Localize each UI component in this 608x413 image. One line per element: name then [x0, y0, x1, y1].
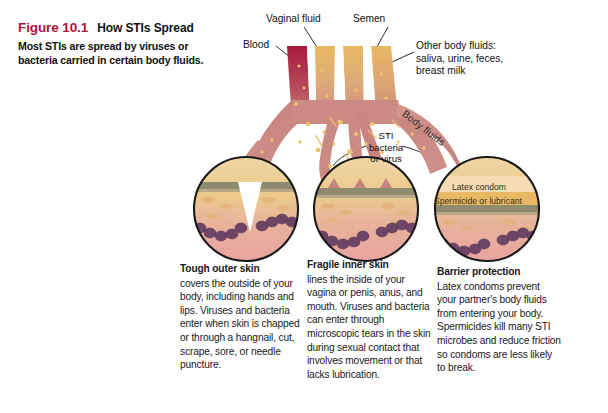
label-sti-bacteria-or-virus: STI bacteria or virus: [369, 130, 403, 165]
caption-heading: Barrier protection: [437, 265, 561, 279]
label-latex-condom: Latex condom: [452, 182, 506, 192]
caption-tough-outer-skin: Tough outer skincovers the outside of yo…: [180, 262, 302, 372]
caption-barrier-protection: Barrier protectionLatex condoms prevent …: [437, 265, 561, 375]
caption-heading: Tough outer skin: [180, 262, 302, 276]
label-sti-line1: STI: [369, 130, 403, 142]
label-sti-line2: bacteria: [369, 142, 403, 154]
label-vaginal-fluid: Vaginal fluid: [266, 13, 321, 26]
caption-fragile-inner-skin: Fragile inner skinlines the inside of yo…: [307, 258, 433, 381]
label-other-body-fluids: Other body fluids: saliva, urine, feces,…: [416, 40, 504, 78]
circle-tough-outer-skin: [190, 157, 302, 265]
caption-body: lines the inside of your vagina or penis…: [307, 274, 431, 380]
label-semen: Semen: [353, 13, 385, 26]
caption-body: Latex condoms prevent your partner's bod…: [437, 281, 561, 374]
label-sti-line3: or virus: [369, 153, 403, 165]
label-spermicide-or-lubricant: Spermicide or lubricant: [434, 196, 522, 206]
caption-body: covers the outside of your body, includi…: [180, 278, 300, 371]
label-blood: Blood: [243, 39, 269, 52]
figure-canvas: Figure 10.1 How STIs Spread Most STIs ar…: [0, 0, 608, 413]
circle-barrier-protection: [431, 157, 543, 265]
caption-heading: Fragile inner skin: [307, 258, 433, 272]
